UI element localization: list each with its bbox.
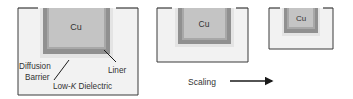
liner-label: Liner bbox=[108, 66, 126, 75]
diffusion-barrier-label-line2: Barrier bbox=[25, 73, 50, 82]
interconnect-structure-medium: Cu bbox=[157, 8, 248, 62]
interconnect-structure-large: Cu Diffusion Barrier Liner Low-K Dielect… bbox=[18, 8, 138, 95]
cu-label: Cu bbox=[296, 14, 306, 23]
diffusion-barrier-label-line1: Diffusion bbox=[19, 62, 51, 71]
cu-label: Cu bbox=[70, 22, 82, 32]
cu-label: Cu bbox=[199, 19, 210, 29]
interconnect-structure-small: Cu bbox=[269, 8, 333, 49]
low-k-dielectric-label: Low-K Dielectric bbox=[53, 82, 112, 91]
scaling-label: Scaling bbox=[188, 77, 216, 87]
interconnect-scaling-diagram: Cu Diffusion Barrier Liner Low-K Dielect… bbox=[0, 0, 353, 99]
